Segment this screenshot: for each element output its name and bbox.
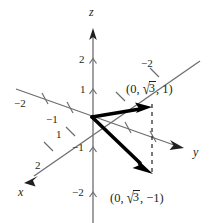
z-axis-label: z: [89, 6, 94, 18]
vector-upper-label-close: , 1): [156, 82, 173, 96]
vector-group: [92, 103, 153, 175]
x-tick-negative-2: [150, 68, 159, 77]
tick-label-x-negative-2: −2: [141, 58, 153, 69]
tick-label-z-2: 2: [79, 54, 85, 65]
x-tick-negative-1: [116, 92, 125, 101]
tick-label-z-1: 1: [80, 84, 86, 95]
sqrt-icon-lower: √3: [127, 191, 140, 205]
x-axis-line: [34, 61, 200, 176]
x-tick-2: [44, 142, 53, 151]
y-axis: [16, 89, 184, 150]
tick-label-z-negative-2: −2: [72, 187, 84, 198]
y-axis-label: y: [193, 146, 198, 158]
vector-diagram: z y x 2 1 −1 −2 −2 −1 −2 1 2 (0, √3, 1) …: [0, 0, 220, 223]
vector-lower-label: (0, √3, −1): [110, 191, 164, 205]
x-tick-1: [66, 127, 75, 136]
axes-and-vectors-canvas: [0, 0, 220, 223]
radicand-upper: 3: [149, 81, 156, 95]
x-axis-label: x: [18, 186, 23, 198]
vector-lower-label-open: (0,: [110, 191, 127, 205]
tick-label-y-negative-1: −1: [46, 114, 58, 125]
tick-label-x-1: 1: [56, 129, 62, 140]
z-axis: [89, 28, 97, 223]
vector-lower-label-close: , −1): [140, 191, 164, 205]
x-axis-arrowhead: [24, 176, 38, 187]
vector-upper-label-open: (0,: [126, 82, 143, 96]
tick-label-y-negative-2: −2: [14, 98, 26, 109]
vector-upper-label: (0, √3, 1): [126, 82, 173, 96]
radicand-lower: 3: [133, 190, 140, 204]
tick-label-x-2: 2: [35, 160, 41, 171]
sqrt-icon-upper: √3: [143, 82, 156, 96]
tick-label-z-negative-1: −1: [72, 142, 84, 153]
vector-upper-shaft: [92, 109, 140, 117]
y-axis-arrowhead: [170, 140, 185, 150]
